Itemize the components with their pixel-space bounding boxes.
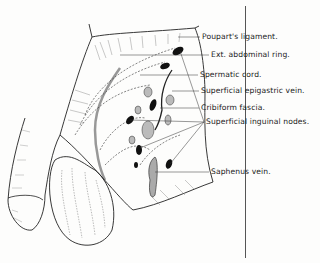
- page-fold-line: [245, 6, 246, 258]
- spermatic-cord-shape: [95, 68, 120, 180]
- label-saphenus-vein: Saphenus vein.: [211, 167, 271, 176]
- leader-lines: [120, 37, 209, 172]
- glans: [8, 195, 43, 200]
- label-superficial-inguinal-nodes: Superficial inguinal nodes.: [206, 117, 309, 126]
- label-cribiform-fascia: Cribiform fascia.: [201, 103, 265, 112]
- skin-flap: [60, 24, 213, 210]
- label-pouparts-ligament: Poupart's ligament.: [202, 32, 278, 41]
- lymph-nodes: [124, 45, 184, 170]
- label-ext-abdominal-ring: Ext. abdominal ring.: [211, 50, 290, 59]
- label-superficial-epigastric-vein: Superficial epigastric vein.: [201, 86, 305, 95]
- saphenus-vein-shape: [149, 157, 157, 197]
- penis-hatching: [12, 130, 30, 222]
- label-spermatic-cord: Spermatic cord.: [200, 70, 262, 79]
- scrotum-texture: [62, 168, 105, 238]
- cribiform-openings: [129, 87, 174, 144]
- penis: [8, 118, 60, 230]
- scrotum: [50, 157, 114, 246]
